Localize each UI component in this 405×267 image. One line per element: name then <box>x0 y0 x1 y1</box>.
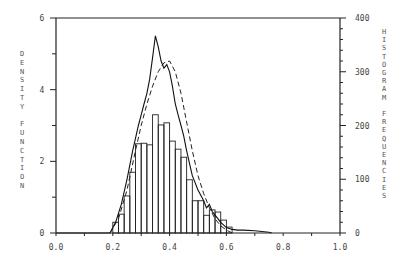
axis-label-letter: C <box>382 167 386 175</box>
axis-label-letter: Q <box>382 135 386 143</box>
axis-label-letter: I <box>20 164 24 172</box>
axis-label-letter: I <box>20 85 24 93</box>
x-tick-label: 0.8 <box>276 243 291 252</box>
histogram-bar <box>147 145 153 233</box>
axis-label-letter: D <box>20 50 24 58</box>
left-tick-label: 6 <box>40 14 45 23</box>
histogram-bar <box>187 180 193 233</box>
axis-label-letter: G <box>382 69 386 77</box>
axis-label-letter: U <box>20 129 24 137</box>
axis-label-letter: I <box>382 36 386 44</box>
axis-label-letter: T <box>20 94 25 102</box>
histogram-bar <box>170 141 176 233</box>
right-tick-label: 100 <box>355 175 370 184</box>
axis-label-letter: C <box>20 147 24 155</box>
axis-label-letter: N <box>20 182 24 190</box>
right-tick-label: 300 <box>355 68 370 77</box>
histogram-bar <box>181 157 187 233</box>
axis-label-letter: E <box>382 151 386 159</box>
axis-label-letter: A <box>382 85 387 93</box>
histogram-bar <box>153 115 159 233</box>
axis-label-letter: S <box>382 192 386 200</box>
right-tick-label: 400 <box>355 14 370 23</box>
left-tick-label: 0 <box>40 229 45 238</box>
axis-label-letter: E <box>382 126 386 134</box>
fitted-density-curve-dashed <box>110 61 232 233</box>
right-axis-label: HISTOGRAMFREQUENCIES <box>382 28 387 200</box>
right-tick-label: 0 <box>355 229 360 238</box>
x-tick-label: 0.6 <box>219 243 234 252</box>
x-tick-label: 0.2 <box>106 243 121 252</box>
axis-label-letter: U <box>382 143 386 151</box>
axis-label-letter: I <box>382 176 386 184</box>
histogram-bar <box>198 201 204 233</box>
histogram-bar <box>136 144 142 233</box>
axis-label-letter: E <box>20 59 24 67</box>
axis-label-letter: N <box>382 159 386 167</box>
axis-label-letter: M <box>382 94 386 102</box>
left-tick-label: 4 <box>40 86 45 95</box>
axis-label-letter: S <box>382 44 386 52</box>
histogram-bars <box>113 115 232 233</box>
axis-label-letter: S <box>20 76 24 84</box>
x-tick-label: 0.4 <box>162 243 177 252</box>
right-axis-ticks: 0100200300400 <box>340 14 370 238</box>
histogram-bar <box>175 149 181 233</box>
x-tick-label: 0.0 <box>49 243 64 252</box>
left-axis-label: DENSITYFUNCTION <box>20 50 25 190</box>
axis-label-letter: E <box>382 184 386 192</box>
histogram-bar <box>141 143 147 233</box>
axis-label-letter: N <box>20 68 24 76</box>
x-tick-label: 1.0 <box>333 243 348 252</box>
density-histogram-chart: 0.00.20.40.60.81.0 0246 0100200300400 DE… <box>0 0 405 267</box>
axis-label-letter: T <box>382 53 387 61</box>
axis-label-letter: H <box>382 28 386 36</box>
axis-label-letter: N <box>20 138 24 146</box>
axis-label-letter: T <box>20 156 25 164</box>
histogram-bar <box>192 201 198 233</box>
axis-label-letter: F <box>382 110 386 118</box>
axis-label-letter: R <box>382 118 387 126</box>
axis-label-letter: O <box>20 173 24 181</box>
right-tick-label: 200 <box>355 122 370 131</box>
histogram-bar <box>204 215 210 233</box>
left-axis-ticks: 0246 <box>40 14 56 238</box>
x-axis-ticks: 0.00.20.40.60.81.0 <box>49 233 348 252</box>
axis-label-letter: Y <box>20 103 25 111</box>
histogram-bar <box>164 123 170 233</box>
histogram-bar <box>158 125 164 233</box>
histogram-bar <box>130 172 136 233</box>
axis-label-letter: F <box>20 120 24 128</box>
histogram-bar <box>124 196 130 233</box>
axis-label-letter: R <box>382 77 387 85</box>
left-tick-label: 2 <box>40 157 45 166</box>
axis-label-letter: O <box>382 61 386 69</box>
